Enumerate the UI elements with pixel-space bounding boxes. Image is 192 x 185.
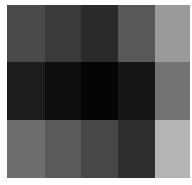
heatmap-cell [45,5,81,62]
heatmap-cell [7,62,45,120]
heatmap-cell [7,120,45,178]
heatmap-cell [155,120,190,178]
heatmap-cell [81,5,118,62]
heatmap-cell [7,5,45,62]
heatmap-cell [118,62,155,120]
heatmap-cell [81,120,118,178]
heatmap-cell [155,5,190,62]
heatmap-cell [155,62,190,120]
heatmap-cell [118,5,155,62]
heatmap-cell [45,62,81,120]
heatmap-cell [45,120,81,178]
heatmap-grid [7,5,190,178]
heatmap-cell [81,62,118,120]
heatmap-cell [118,120,155,178]
